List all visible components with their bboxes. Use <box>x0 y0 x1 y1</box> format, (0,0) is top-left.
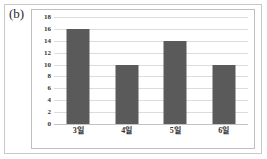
bar-slot <box>200 17 249 124</box>
bar-slot <box>54 17 103 124</box>
bar-slot <box>103 17 152 124</box>
chart-inner-area: 181614121086420 3일4일5일6일 <box>32 10 254 148</box>
y-tick-label-6: 6 <box>48 85 52 92</box>
bar-6일 <box>212 65 235 124</box>
y-tick-label-12: 12 <box>44 49 51 56</box>
x-tick-label-5일: 5일 <box>170 126 181 136</box>
panel-label: (b) <box>9 7 24 21</box>
y-tick-label-14: 14 <box>44 37 51 44</box>
y-tick-label-4: 4 <box>48 97 52 104</box>
x-tick-label-3일: 3일 <box>73 126 84 136</box>
bar-4일 <box>115 65 138 124</box>
y-tick-label-2: 2 <box>48 109 52 116</box>
figure-panel-b: (b) 181614121086420 3일4일5일6일 <box>0 0 267 159</box>
bar-5일 <box>164 41 187 124</box>
y-tick-label-18: 18 <box>44 14 51 21</box>
y-tick-label-0: 0 <box>48 121 52 128</box>
y-tick-label-8: 8 <box>48 73 52 80</box>
bar-chart: 181614121086420 3일4일5일6일 <box>31 9 255 149</box>
bar-slot <box>151 17 200 124</box>
gridline-0 <box>54 124 248 125</box>
plot-area <box>54 17 248 124</box>
bar-3일 <box>67 29 90 124</box>
y-axis: 181614121086420 <box>32 17 53 124</box>
x-tick-label-4일: 4일 <box>121 126 132 136</box>
x-tick-label-6일: 6일 <box>218 126 229 136</box>
bar-series <box>54 17 248 124</box>
y-tick-label-10: 10 <box>44 61 51 68</box>
y-tick-label-16: 16 <box>44 25 51 32</box>
x-axis: 3일4일5일6일 <box>54 126 248 142</box>
